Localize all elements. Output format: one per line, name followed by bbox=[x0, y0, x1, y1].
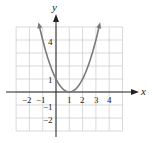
y-axis-label: y bbox=[51, 1, 57, 13]
grid bbox=[16, 27, 122, 131]
y-tick-label: −1 bbox=[43, 102, 53, 112]
curve-arrow-left-icon bbox=[37, 22, 42, 28]
x-tick-label: 4 bbox=[107, 95, 112, 105]
x-tick-label: −2 bbox=[22, 95, 32, 105]
tick-labels: −2 −1 1 2 3 4 4 1 −1 −2 bbox=[22, 37, 112, 125]
y-tick-label: 4 bbox=[48, 37, 53, 47]
x-tick-label: 2 bbox=[80, 95, 85, 105]
x-tick-label: 1 bbox=[67, 95, 72, 105]
curve-arrow-right-icon bbox=[96, 22, 101, 28]
y-axis-arrow-icon bbox=[53, 14, 59, 22]
x-axis-label: x bbox=[140, 85, 146, 97]
parabola-graph: x y −2 −1 1 2 3 4 4 1 −1 −2 bbox=[0, 0, 152, 143]
x-tick-label: 3 bbox=[94, 95, 99, 105]
x-axis-arrow-icon bbox=[131, 89, 139, 95]
y-tick-label: −2 bbox=[43, 115, 53, 125]
axes: x y bbox=[6, 1, 146, 137]
y-tick-label: 1 bbox=[48, 75, 53, 85]
